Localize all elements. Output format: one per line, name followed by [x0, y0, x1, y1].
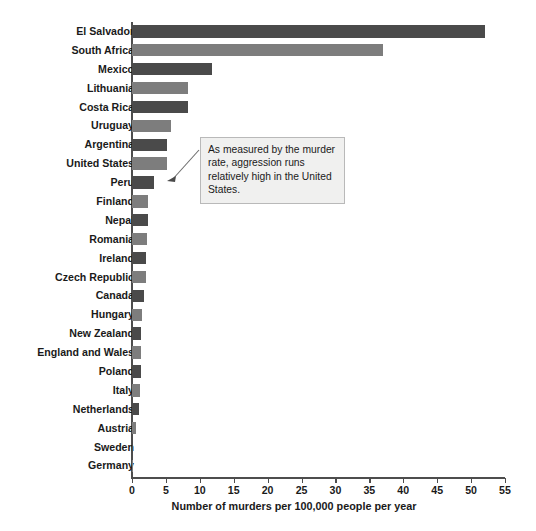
- x-tick-label: 30: [330, 484, 342, 496]
- x-tick-label: 10: [194, 484, 206, 496]
- x-tick-mark: [505, 478, 506, 483]
- x-tick-mark: [200, 478, 201, 483]
- x-tick-mark: [132, 478, 133, 483]
- x-tick-label: 45: [431, 484, 443, 496]
- x-tick-label: 55: [499, 484, 511, 496]
- x-axis-title: Number of murders per 100,000 people per…: [0, 500, 536, 512]
- x-tick-label: 5: [163, 484, 169, 496]
- x-tick-label: 0: [129, 484, 135, 496]
- murder-rate-bar-chart: El SalvadorSouth AfricaMexicoLithuaniaCo…: [0, 0, 536, 531]
- x-axis-title-text: Number of murders per 100,000 people per…: [172, 500, 417, 512]
- x-tick-mark: [166, 478, 167, 483]
- x-tick-mark: [471, 478, 472, 483]
- x-tick-mark: [369, 478, 370, 483]
- x-tick-mark: [437, 478, 438, 483]
- x-tick-mark: [268, 478, 269, 483]
- plot-area: El SalvadorSouth AfricaMexicoLithuaniaCo…: [0, 0, 536, 531]
- x-tick-label: 15: [228, 484, 240, 496]
- x-tick-mark: [234, 478, 235, 483]
- x-tick-mark: [302, 478, 303, 483]
- x-tick-label: 50: [465, 484, 477, 496]
- x-tick-label: 35: [363, 484, 375, 496]
- x-axis-ticks: 0510152025303540455055: [0, 0, 536, 531]
- x-tick-label: 40: [397, 484, 409, 496]
- x-tick-mark: [335, 478, 336, 483]
- x-tick-label: 25: [296, 484, 308, 496]
- x-tick-mark: [403, 478, 404, 483]
- annotation-callout: As measured by the murder rate, aggressi…: [200, 137, 345, 204]
- x-tick-label: 20: [262, 484, 274, 496]
